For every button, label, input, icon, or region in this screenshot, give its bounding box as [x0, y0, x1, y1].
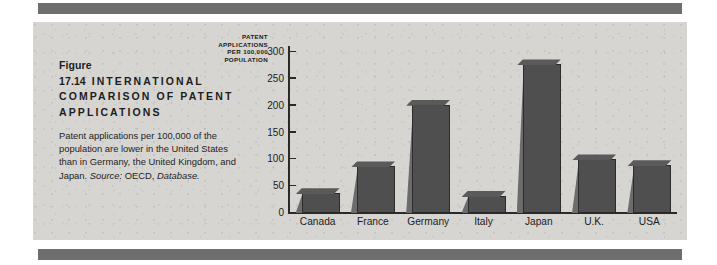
bar-chart: PATENTAPPLICATIONSPER 100,000POPULATION … — [33, 22, 687, 240]
x-tick-label: Germany — [401, 216, 456, 227]
bar[interactable] — [351, 161, 395, 213]
y-tick-label: 250 — [252, 72, 284, 83]
bar-front-face — [302, 193, 340, 213]
bar[interactable] — [627, 160, 671, 213]
x-tick-label: U.K. — [566, 216, 621, 227]
y-tick-label: 300 — [252, 46, 284, 57]
bar[interactable] — [296, 188, 340, 213]
bar[interactable] — [572, 154, 616, 213]
bottom-rule — [38, 249, 682, 260]
bar-top-face — [296, 188, 340, 194]
bar-top-face — [462, 191, 506, 197]
y-tick-label: 100 — [252, 153, 284, 164]
bar-slot — [517, 22, 561, 213]
top-rule — [38, 3, 682, 14]
bar-top-face — [572, 154, 616, 160]
bar-slot — [462, 22, 506, 213]
bar-front-face — [357, 166, 395, 213]
x-tick-label: Italy — [456, 216, 511, 227]
bar-slot — [351, 22, 395, 213]
bar-front-face — [633, 165, 671, 213]
bar-top-face — [517, 59, 561, 65]
bar-front-face — [578, 159, 616, 213]
bar-slot — [627, 22, 671, 213]
bar-slot — [296, 22, 340, 213]
bar-group — [290, 22, 677, 213]
bar-top-face — [351, 161, 395, 167]
bar-front-face — [412, 105, 450, 213]
x-axis-labels: CanadaFranceGermanyItalyJapanU.K.USA — [290, 216, 677, 236]
y-tick-label: 150 — [252, 126, 284, 137]
bar-slot — [572, 22, 616, 213]
bar[interactable] — [462, 191, 506, 213]
x-tick-label: USA — [622, 216, 677, 227]
bar[interactable] — [517, 59, 561, 213]
x-tick-label: France — [345, 216, 400, 227]
y-tick-label: 0 — [252, 207, 284, 218]
y-tick-label: 50 — [252, 180, 284, 191]
y-axis-labels: 050100150200250300 — [248, 22, 284, 240]
bar-front-face — [468, 196, 506, 213]
bar-top-face — [627, 160, 671, 166]
figure-page: Figure 17.14 INTERNATIONAL COMPARISON OF… — [0, 0, 717, 265]
bar-slot — [406, 22, 450, 213]
x-tick-label: Japan — [511, 216, 566, 227]
x-tick-label: Canada — [290, 216, 345, 227]
y-tick-label: 200 — [252, 99, 284, 110]
bar-front-face — [523, 64, 561, 213]
figure-panel: Figure 17.14 INTERNATIONAL COMPARISON OF… — [33, 22, 687, 240]
bar[interactable] — [406, 100, 450, 213]
bar-top-face — [406, 100, 450, 106]
